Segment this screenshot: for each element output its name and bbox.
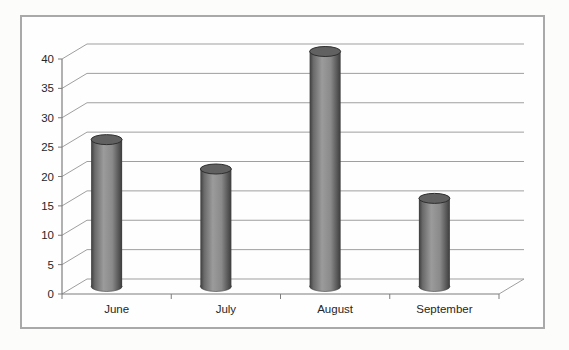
plot-area	[58, 44, 524, 299]
gridline-10	[62, 220, 524, 235]
gridline-25	[62, 132, 524, 147]
y-tick-label: 35	[41, 82, 54, 94]
x-category-label: July	[216, 303, 237, 315]
x-category-label: June	[104, 303, 129, 315]
gridline-40	[62, 44, 524, 59]
cylinder-body	[91, 140, 122, 287]
cylinder-bar-july	[200, 164, 231, 292]
floor-back-edge	[62, 279, 524, 294]
floor-right-edge	[499, 279, 524, 294]
gridline-30	[62, 103, 524, 118]
cylinder-top	[419, 193, 450, 203]
cylinder-bar-august	[310, 47, 341, 292]
y-tick-label: 10	[41, 229, 54, 241]
y-tick-label: 0	[48, 288, 54, 300]
y-tick-label: 5	[48, 259, 54, 271]
cylinder-top	[310, 47, 341, 57]
cylinder-bar-september	[419, 193, 450, 291]
y-tick-label: 40	[41, 53, 54, 65]
y-tick-label: 15	[41, 200, 54, 212]
x-axis-labels: June July August September	[104, 303, 473, 315]
y-axis-labels: 40 35 30 25 20 15 10 5 0	[41, 53, 54, 300]
y-tick-label: 20	[41, 171, 54, 183]
gridline-35	[62, 73, 524, 88]
x-category-label: August	[317, 303, 354, 315]
gridline-20	[62, 162, 524, 177]
cylinder-top	[91, 135, 122, 145]
cylinder-top	[200, 164, 231, 174]
y-tick-label: 25	[41, 141, 54, 153]
cylinder-body	[419, 198, 450, 286]
cylinder-bar-june	[91, 135, 122, 292]
x-category-label: September	[416, 303, 472, 315]
gridline-5	[62, 250, 524, 265]
chart-canvas: 40 35 30 25 20 15 10 5 0 June July Augus…	[0, 0, 569, 350]
gridline-15	[62, 191, 524, 206]
cylinder-body	[310, 52, 341, 287]
y-tick-label: 30	[41, 112, 54, 124]
cylinder-body	[200, 169, 231, 287]
